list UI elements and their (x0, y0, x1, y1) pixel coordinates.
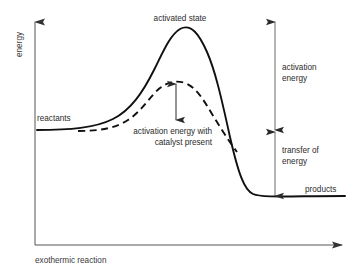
reactants-label: reactants (37, 114, 71, 123)
x-axis-label: exothermic reaction (35, 256, 107, 265)
activation-energy-label-line-2: energy (282, 74, 308, 83)
products-label: products (305, 185, 336, 194)
transfer-energy-label-line-2: energy (282, 157, 308, 166)
energy-profile-chart: energy exothermic reaction reactants pro… (0, 0, 356, 280)
curves-group (37, 27, 345, 196)
transfer-energy-label-line-1: transfer of (282, 146, 320, 155)
uncatalysed-reaction-curve (37, 27, 345, 196)
catalyst-label-line-1: activation energy with (133, 127, 212, 136)
y-axis-label: energy (15, 31, 24, 57)
energy-diagram-figure: energy exothermic reaction reactants pro… (0, 0, 356, 280)
labels-group: energy exothermic reaction reactants pro… (15, 14, 336, 265)
activation-energy-label-line-1: activation (282, 63, 317, 72)
activated-state-label: activated state (154, 14, 207, 23)
catalyst-label-line-2: catalyst present (155, 138, 213, 147)
